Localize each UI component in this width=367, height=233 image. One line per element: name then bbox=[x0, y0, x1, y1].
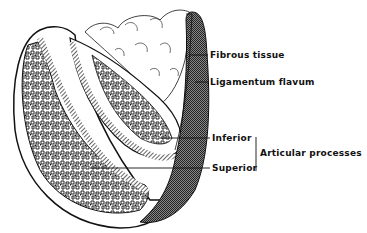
label-articular-processes: Articular processes bbox=[260, 148, 362, 158]
label-superior: Superior bbox=[212, 163, 257, 173]
facet-joint-illustration bbox=[0, 0, 367, 233]
label-inferior: Inferior bbox=[212, 133, 252, 143]
label-ligamentum-flavum: Ligamentum flavum bbox=[210, 77, 315, 87]
label-fibrous-tissue: Fibrous tissue bbox=[210, 50, 285, 60]
